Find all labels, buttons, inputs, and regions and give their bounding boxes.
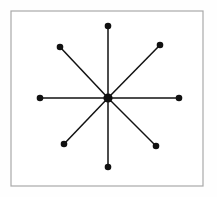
node-upper-right[interactable] <box>157 42 164 49</box>
figure-root <box>0 0 217 197</box>
node-right[interactable] <box>176 95 183 102</box>
node-lower-right[interactable] <box>153 143 160 150</box>
star-graph-diagram <box>0 0 217 197</box>
node-lower-left[interactable] <box>61 141 68 148</box>
hub-node-center[interactable] <box>103 93 112 102</box>
node-down[interactable] <box>105 164 112 171</box>
node-left[interactable] <box>37 95 44 102</box>
node-up[interactable] <box>105 23 112 30</box>
node-upper-left[interactable] <box>57 44 64 51</box>
